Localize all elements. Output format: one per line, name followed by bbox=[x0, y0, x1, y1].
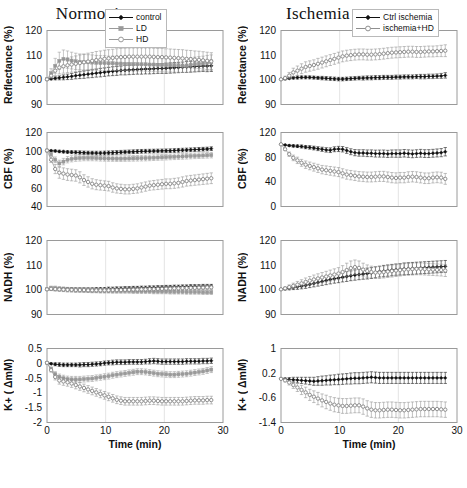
x-tick-label: 20 bbox=[159, 425, 170, 436]
panel-ischemia-cbf: 04080120CBF (%) bbox=[234, 132, 467, 232]
panel-ischemia-nadh: 90100110120NADH (%) bbox=[234, 240, 467, 340]
series-hd bbox=[45, 361, 213, 405]
panel-ischemia-k: -1.4-0.60.21K+ ( ΔmM)0102030Time (min) bbox=[234, 348, 467, 448]
y-axis-label: K+ ( ΔmM) bbox=[2, 348, 14, 422]
x-tick-label: 10 bbox=[100, 425, 111, 436]
legend-item[interactable]: HD bbox=[109, 34, 162, 45]
y-axis-label: NADH (%) bbox=[236, 240, 248, 314]
legend-label: control bbox=[136, 13, 162, 22]
series-ctrl-ischemia bbox=[279, 73, 447, 81]
legend-item[interactable]: ischemia+HD bbox=[356, 23, 434, 34]
y-axis-label: K+ ( ΔmM) bbox=[236, 348, 248, 422]
x-axis-label: Time (min) bbox=[109, 438, 162, 450]
legend-marker-icon bbox=[356, 24, 380, 33]
panel-normoxia-k: -2-1.5-1-0.500.5K+ ( ΔmM)0102030Time (mi… bbox=[0, 348, 233, 448]
series-control bbox=[45, 358, 213, 367]
x-tick-label: 10 bbox=[334, 425, 345, 436]
x-tick-label: 20 bbox=[393, 425, 404, 436]
figure-root: Normoxia 90100110120Reflectance (%)contr… bbox=[0, 0, 467, 488]
x-tick-label: 0 bbox=[278, 425, 284, 436]
legend-marker-icon bbox=[109, 13, 133, 22]
series-ctrl-ischemia bbox=[279, 372, 447, 386]
y-axis-label: Reflectance (%) bbox=[236, 30, 248, 104]
y-axis-label: CBF (%) bbox=[2, 132, 14, 206]
legend: Ctrl ischemiaischemia+HD bbox=[352, 9, 439, 37]
series-ctrl-ischemia bbox=[279, 143, 447, 158]
column-ischemia: Ischemia 90100110120Reflectance (%)Ctrl … bbox=[234, 0, 467, 488]
series-ischemia-hd bbox=[279, 45, 447, 81]
y-axis-label: NADH (%) bbox=[2, 240, 14, 314]
legend-label: Ctrl ischemia bbox=[383, 13, 432, 22]
legend-marker-icon bbox=[356, 13, 380, 22]
panel-normoxia-cbf: 406080100120CBF (%) bbox=[0, 132, 233, 232]
legend-item[interactable]: control bbox=[109, 12, 162, 23]
legend-marker-icon bbox=[109, 24, 133, 33]
legend-marker-icon bbox=[109, 35, 133, 44]
y-axis-label: Reflectance (%) bbox=[2, 30, 14, 104]
legend-item[interactable]: LD bbox=[109, 23, 162, 34]
legend: controlLDHD bbox=[105, 9, 167, 48]
y-axis-label: CBF (%) bbox=[236, 132, 248, 206]
x-tick-label: 30 bbox=[217, 425, 228, 436]
x-tick-label: 30 bbox=[451, 425, 462, 436]
panel-normoxia-nadh: 90100110120NADH (%) bbox=[0, 240, 233, 340]
legend-label: LD bbox=[136, 24, 147, 33]
x-axis-label: Time (min) bbox=[343, 438, 396, 450]
x-tick-label: 0 bbox=[44, 425, 50, 436]
panel-normoxia-reflectance: 90100110120Reflectance (%)controlLDHD bbox=[0, 30, 233, 130]
legend-item[interactable]: Ctrl ischemia bbox=[356, 12, 434, 23]
panel-ischemia-reflectance: 90100110120Reflectance (%)Ctrl ischemiai… bbox=[234, 30, 467, 130]
legend-label: ischemia+HD bbox=[383, 24, 434, 33]
legend-label: HD bbox=[136, 35, 148, 44]
series-ischemia-hd bbox=[279, 260, 447, 291]
column-normoxia: Normoxia 90100110120Reflectance (%)contr… bbox=[0, 0, 233, 488]
